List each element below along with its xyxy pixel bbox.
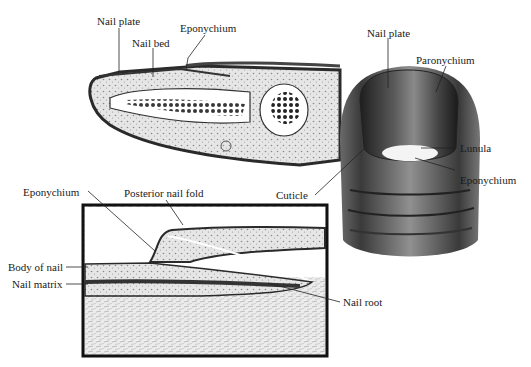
inset-detail-illustration	[83, 205, 327, 356]
label-top-eponychium: Eponychium	[180, 22, 236, 34]
label-finger-nail-plate: Nail plate	[367, 27, 410, 39]
label-finger-lunula: Lunula	[460, 142, 491, 154]
label-inset-nail-matrix: Nail matrix	[12, 278, 62, 290]
fingertip-illustration	[340, 66, 480, 257]
label-finger-cuticle: Cuticle	[276, 189, 308, 201]
label-inset-nail-root: Nail root	[343, 296, 382, 308]
label-inset-eponychium: Eponychium	[23, 186, 79, 198]
label-finger-paronychium: Paronychium	[416, 54, 475, 66]
label-inset-body-of-nail: Body of nail	[8, 261, 63, 273]
label-inset-posterior-nail-fold: Posterior nail fold	[124, 187, 203, 199]
nail-anatomy-diagram: Nail plate Nail bed Eponychium Eponychiu…	[0, 0, 531, 367]
label-top-nail-plate: Nail plate	[97, 15, 140, 27]
cross-section-illustration	[90, 63, 340, 165]
label-finger-eponychium: Eponychium	[460, 174, 516, 186]
label-top-nail-bed: Nail bed	[132, 37, 170, 49]
